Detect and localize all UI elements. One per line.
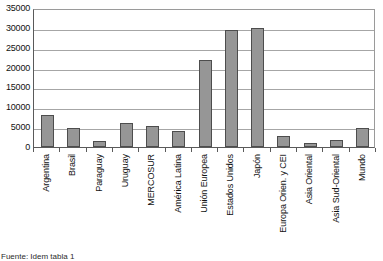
x-axis-label-2: Brasil xyxy=(66,152,78,247)
y-tick-label: 20000 xyxy=(0,64,30,73)
bar xyxy=(277,136,290,147)
bar xyxy=(304,143,317,147)
x-axis-label-text: Paraguay xyxy=(94,154,103,192)
x-axis-label-7: Unión Europea xyxy=(198,152,210,247)
x-axis-label-12: Asia Sud-Oriental xyxy=(330,152,342,247)
bars-layer xyxy=(34,10,374,147)
y-tick-label: 0 xyxy=(0,143,30,152)
x-axis-label-text: América Latina xyxy=(173,154,182,213)
x-axis-labels: ArgentinaBrasilParaguayUruguayMERCOSURAm… xyxy=(33,152,375,247)
bar xyxy=(199,60,212,147)
x-axis-label-text: Japón xyxy=(252,154,261,178)
x-axis-label-9: Japón xyxy=(251,152,263,247)
x-axis-label-text: Asia Oriental xyxy=(305,154,314,204)
bar xyxy=(251,28,264,147)
x-axis-label-6: América Latina xyxy=(172,152,184,247)
x-axis-label-8: Estados Unidos xyxy=(224,152,236,247)
bar xyxy=(172,131,185,147)
x-tick xyxy=(375,148,376,152)
x-axis-label-13: Mundo xyxy=(356,152,368,247)
x-axis-label-10: Europa Orien. y CEI xyxy=(277,152,289,247)
bar xyxy=(330,140,343,147)
x-axis-label-text: Uruguay xyxy=(121,154,130,187)
x-axis-label-1: Argentina xyxy=(40,152,52,247)
x-axis-label-text: Estados Unidos xyxy=(226,154,235,216)
bar xyxy=(67,128,80,147)
y-tick-label: 5000 xyxy=(0,123,30,132)
bar xyxy=(225,30,238,147)
bar xyxy=(120,123,133,147)
x-axis-label-5: MERCOSUR xyxy=(145,152,157,247)
x-axis-label-text: Europa Orien. y CEI xyxy=(278,154,287,233)
bar xyxy=(41,115,54,147)
y-tick-label: 30000 xyxy=(0,24,30,33)
y-tick-label: 10000 xyxy=(0,103,30,112)
y-tick-label: 15000 xyxy=(0,83,30,92)
x-axis-label-4: Uruguay xyxy=(119,152,131,247)
x-axis-label-3: Paraguay xyxy=(93,152,105,247)
x-axis-label-text: Argentina xyxy=(42,154,51,192)
x-axis-label-text: Mundo xyxy=(357,154,366,181)
bar xyxy=(146,126,159,147)
footer-note: Fuente: Idem tabla 1 xyxy=(1,252,74,261)
bar xyxy=(93,141,106,147)
plot-area xyxy=(33,9,375,148)
x-axis-label-text: Unión Europea xyxy=(200,154,209,213)
y-axis: 35000300002500020000150001000050000 xyxy=(0,0,30,155)
x-axis-label-11: Asia Oriental xyxy=(303,152,315,247)
x-axis-label-text: Asia Sud-Oriental xyxy=(331,154,340,223)
y-tick-label: 35000 xyxy=(0,4,30,13)
bar-chart: 35000300002500020000150001000050000 Arge… xyxy=(0,0,383,261)
x-axis-label-text: MERCOSUR xyxy=(147,154,156,206)
x-axis-label-text: Brasil xyxy=(68,154,77,176)
y-tick-label: 25000 xyxy=(0,44,30,53)
bar xyxy=(356,128,369,147)
